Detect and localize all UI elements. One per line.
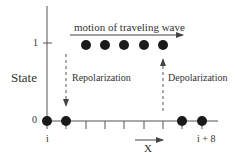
y-axis-label: State	[11, 71, 37, 84]
wave-label: motion of traveling wave	[74, 22, 185, 33]
x-tick-label-end: i + 8	[197, 134, 215, 144]
x-tick-label-start: i	[46, 134, 49, 144]
x-axis-label: X	[144, 143, 152, 154]
state-1-cells	[81, 40, 168, 50]
y-tick-label-0: 0	[32, 115, 37, 125]
depolarization-label: Depolarization	[168, 73, 227, 83]
y-tick-label-1: 1	[33, 38, 38, 48]
repolarization-label: Repolarization	[72, 73, 131, 83]
